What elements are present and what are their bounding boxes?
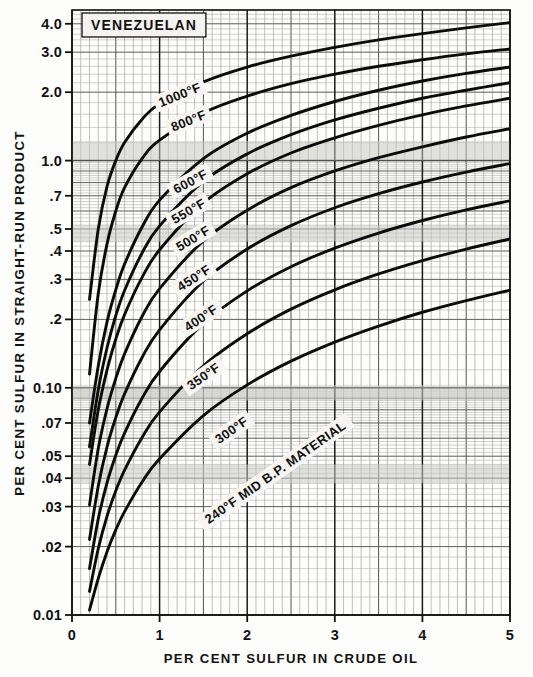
x-tick-label: 3: [331, 627, 339, 643]
annotation-box: VENEZUELAN: [82, 13, 206, 37]
annotation-box-label: VENEZUELAN: [91, 17, 197, 33]
y-tick-label: .07: [41, 415, 62, 431]
x-tick-label: 4: [418, 627, 426, 643]
shade-band: [72, 141, 510, 161]
figure-background: [0, 0, 533, 677]
y-tick-label: 3.0: [41, 44, 62, 60]
y-tick-label: .02: [41, 539, 62, 555]
x-tick-label: 5: [506, 627, 514, 643]
y-tick-label: .03: [41, 499, 62, 515]
y-tick-label: 2.0: [41, 84, 62, 100]
y-tick-label: .4: [50, 243, 63, 259]
y-tick-label: 0.01: [33, 607, 62, 623]
x-axis-title: PER CENT SULFUR IN CRUDE OIL: [164, 651, 419, 666]
y-tick-label: .3: [50, 271, 63, 287]
x-tick-label: 2: [243, 627, 251, 643]
x-tick-label: 0: [68, 627, 76, 643]
y-axis-title: PER CENT SULFUR IN STRAIGHT-RUN PRODUCT: [12, 130, 27, 496]
y-tick-label: .04: [41, 470, 62, 486]
x-tick-label: 1: [155, 627, 163, 643]
log-linear-chart: 1000°F800°F600°F550°F500°F450°F400°F350°…: [0, 0, 533, 677]
y-tick-label: .5: [50, 221, 63, 237]
y-tick-label: .7: [50, 188, 63, 204]
y-tick-label: .05: [41, 448, 62, 464]
shade-band: [72, 385, 510, 401]
chart-figure: 1000°F800°F600°F550°F500°F450°F400°F350°…: [0, 0, 533, 677]
y-tick-label: 4.0: [41, 16, 62, 32]
y-tick-label: 0.10: [33, 380, 62, 396]
y-tick-label: 1.0: [41, 153, 62, 169]
y-tick-label: .2: [50, 311, 63, 327]
